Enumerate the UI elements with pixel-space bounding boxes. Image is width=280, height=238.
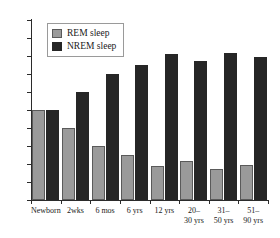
legend-label-rem: REM sleep [67, 28, 109, 39]
bar-rem [62, 128, 75, 200]
x-tick-mark [179, 200, 180, 204]
x-tick-mark [150, 200, 151, 204]
bar-group [210, 20, 237, 200]
legend-item-rem: REM sleep [52, 27, 116, 40]
x-tick-mark [120, 200, 121, 204]
bar-group [121, 20, 148, 200]
bar-rem [180, 161, 193, 200]
chart-legend: REM sleep NREM sleep [47, 23, 124, 57]
legend-swatch-rem-icon [52, 29, 62, 38]
bar-rem [32, 110, 45, 200]
bar-rem [240, 165, 253, 200]
x-tick-mark [209, 200, 210, 204]
bar-nrem [194, 61, 207, 201]
bar-rem [210, 169, 223, 201]
x-tick-label: 51– 90 yrs [232, 206, 274, 225]
bar-nrem [106, 74, 119, 200]
legend-label-nrem: NREM sleep [67, 41, 116, 52]
x-tick-mark [90, 200, 91, 204]
bar-group [180, 20, 207, 200]
bar-nrem [254, 57, 267, 200]
bar-nrem [76, 92, 89, 200]
sleep-stage-bar-chart: 0102030405060708090100 Newborn2wks6 mos6… [0, 0, 280, 238]
x-tick-mark [238, 200, 239, 204]
legend-item-nrem: NREM sleep [52, 40, 116, 53]
bar-rem [92, 146, 105, 200]
x-tick-mark [268, 200, 269, 204]
bar-rem [121, 155, 134, 200]
x-tick-mark [61, 200, 62, 204]
bar-group [151, 20, 178, 200]
x-tick-mark [31, 200, 32, 204]
bar-nrem [224, 53, 237, 200]
bar-nrem [165, 54, 178, 200]
bar-group [240, 20, 267, 200]
legend-swatch-nrem-icon [52, 42, 62, 51]
bar-nrem [135, 65, 148, 200]
bar-rem [151, 166, 164, 200]
bar-nrem [46, 110, 59, 200]
